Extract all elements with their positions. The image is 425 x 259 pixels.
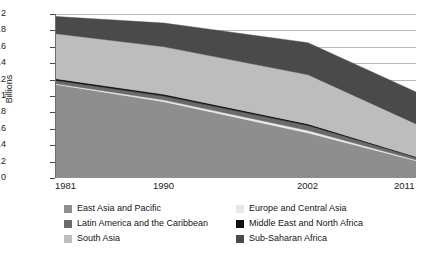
legend-swatch-icon [64,235,72,243]
y-axis-tick-label: 0 [0,173,6,182]
legend-item-label: Sub-Saharan Africa [249,234,327,243]
y-axis-tick-label: 1.2 [0,75,6,84]
y-axis-tick-label: 0.8 [0,107,6,116]
plot-area [55,14,416,178]
plot-inner [56,14,416,178]
legend-item[interactable]: Sub-Saharan Africa [236,234,414,243]
legend-swatch-icon [236,205,244,213]
legend-item-label: Middle East and North Africa [249,219,363,228]
x-axis-tick-label: 1990 [153,181,174,191]
legend-swatch-icon [236,235,244,243]
legend-item[interactable]: Latin America and the Caribbean [64,219,236,228]
area-series-svg [56,14,416,178]
x-axis-tick-label: 2002 [297,181,318,191]
y-axis-tick-label: 0.4 [0,140,6,149]
y-axis-tick-label: 0.6 [0,124,6,133]
legend-item[interactable]: South Asia [64,234,236,243]
y-axis-tick-label: 2 [0,9,6,18]
legend-item-label: South Asia [77,234,120,243]
legend-item-label: Latin America and the Caribbean [77,219,208,228]
y-axis-tick-mark [50,178,55,179]
stacked-area-chart: Billions 00.20.40.60.811.21.41.61.82 198… [0,0,425,259]
x-axis-tick-label: 2011 [394,181,414,191]
y-axis-tick-label: 1.6 [0,42,6,51]
y-axis-tick-label: 0.2 [0,157,6,166]
legend-item[interactable]: East Asia and Pacific [64,204,236,213]
legend-swatch-icon [64,220,72,228]
y-axis-tick-label: 1 [0,91,6,100]
x-axis-tick-label: 1981 [55,181,76,191]
legend-item[interactable]: Middle East and North Africa [236,219,414,228]
y-axis-tick-label: 1.8 [0,25,6,34]
legend-item-label: Europe and Central Asia [249,204,347,213]
chart-legend: East Asia and PacificEurope and Central … [64,201,414,246]
legend-item-label: East Asia and Pacific [77,204,161,213]
legend-swatch-icon [236,220,244,228]
legend-swatch-icon [64,205,72,213]
y-axis-tick-label: 1.4 [0,58,6,67]
legend-item[interactable]: Europe and Central Asia [236,204,414,213]
